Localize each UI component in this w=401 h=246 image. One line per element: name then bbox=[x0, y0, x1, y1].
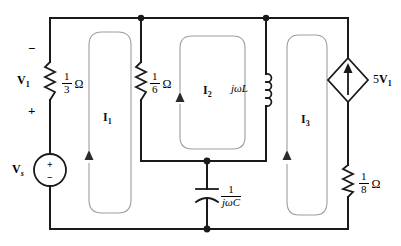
voltage-v1-label: V1 bbox=[17, 74, 30, 89]
resistor-middle-numerator: 1 bbox=[150, 71, 160, 83]
capacitor-numerator: 1 bbox=[221, 184, 241, 196]
resistor-left-polarity-top: − bbox=[28, 42, 35, 55]
capacitor-value: 1 jωC bbox=[221, 185, 241, 209]
resistor-left-zigzag bbox=[45, 62, 55, 100]
junction-dot-mid-capacitor bbox=[204, 158, 211, 165]
mesh-label-2: I2 bbox=[203, 84, 212, 99]
source-vs-subscript: s bbox=[21, 169, 24, 178]
resistor-right-fraction: 1 8 bbox=[359, 171, 369, 195]
resistor-middle-fraction: 1 6 bbox=[150, 71, 160, 95]
resistor-middle-value: 1 6 Ω bbox=[150, 72, 171, 96]
dependent-source-label: 5V1 bbox=[373, 73, 392, 88]
source-vs-plus: + bbox=[47, 160, 53, 170]
mesh-label-1: I1 bbox=[103, 111, 112, 126]
junction-dot-bottom-capacitor bbox=[204, 226, 211, 233]
wire-layer bbox=[0, 0, 401, 246]
resistor-right-numerator: 1 bbox=[359, 171, 369, 183]
resistor-right-zigzag bbox=[343, 165, 353, 197]
resistor-left-polarity-bottom: + bbox=[28, 104, 35, 117]
junction-dot-top-branch2 bbox=[138, 15, 144, 21]
resistor-middle-denominator: 6 bbox=[150, 83, 160, 96]
dependent-source-variable: V bbox=[379, 72, 388, 86]
resistor-left-fraction: 1 3 bbox=[62, 71, 72, 95]
inductor-label: jωL bbox=[231, 83, 248, 94]
mesh-3-subscript: 3 bbox=[306, 119, 310, 128]
circuit-diagram: − V1 + 1 3 Ω 1 6 Ω 1 8 Ω jωL 1 jωC 5V1 bbox=[0, 0, 401, 246]
resistor-right-denominator: 8 bbox=[359, 183, 369, 196]
mesh-2-subscript: 2 bbox=[208, 90, 212, 99]
source-vs-minus: − bbox=[47, 173, 53, 183]
voltage-v1-letter: V bbox=[17, 73, 26, 87]
resistor-left-numerator: 1 bbox=[62, 71, 72, 83]
resistor-right-value: 1 8 Ω bbox=[359, 172, 380, 196]
resistor-left-denominator: 3 bbox=[62, 83, 72, 96]
resistor-left-unit: Ω bbox=[75, 77, 84, 91]
source-vs-letter: V bbox=[12, 162, 21, 176]
source-vs-label: Vs bbox=[12, 163, 24, 178]
inductor-coil bbox=[266, 74, 271, 106]
capacitor-denominator: jωC bbox=[221, 196, 241, 209]
dependent-source-subscript: 1 bbox=[388, 79, 392, 88]
capacitor-fraction: 1 jωC bbox=[221, 184, 241, 208]
resistor-middle-zigzag bbox=[136, 62, 146, 100]
resistor-left-value: 1 3 Ω bbox=[62, 72, 83, 96]
voltage-v1-subscript: 1 bbox=[26, 80, 30, 89]
resistor-right-unit: Ω bbox=[372, 177, 381, 191]
resistor-middle-unit: Ω bbox=[163, 77, 172, 91]
junction-dot-top-inductor bbox=[263, 15, 269, 21]
mesh-1-subscript: 1 bbox=[108, 117, 112, 126]
mesh-label-3: I3 bbox=[301, 113, 310, 128]
